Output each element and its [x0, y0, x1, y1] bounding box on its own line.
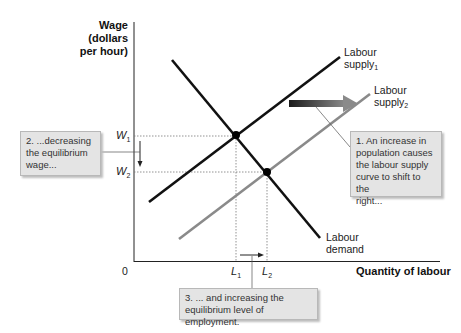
- origin-label: 0: [122, 265, 128, 277]
- labour-supply-2-label: Labour supply2: [374, 84, 408, 112]
- w2-text: W: [116, 165, 126, 177]
- w2-tick-label: W2: [116, 165, 130, 179]
- x-axis-title: Quantity of labour: [356, 265, 451, 277]
- callout-line: population causes: [356, 147, 436, 159]
- w2-sub: 2: [126, 172, 130, 179]
- equilibrium-point-2: [263, 168, 271, 176]
- callout-population-shift: 1. An increase in population causes the …: [350, 131, 442, 197]
- callout-line: curve to shift to the: [356, 171, 436, 195]
- w1-sub: 1: [126, 136, 130, 143]
- y-axis-title-line: Wage: [74, 19, 128, 32]
- w1-text: W: [116, 129, 126, 141]
- labour-supply-1-label: Labour supply1: [344, 46, 378, 74]
- curve-label-line: Labour: [374, 84, 408, 96]
- curve-label-sub: 1: [374, 64, 378, 71]
- callout-line: right...: [356, 195, 436, 207]
- l1-sub: 1: [237, 272, 241, 279]
- equilibrium-point-1: [232, 131, 240, 139]
- y-axis-title-line: per hour): [74, 45, 128, 58]
- curve-label-line: demand: [326, 243, 364, 255]
- callout-line: wage...: [26, 159, 95, 171]
- l2-tick-label: L2: [262, 265, 272, 279]
- callout-line: the equilibrium: [26, 147, 95, 159]
- callout-line: 2. ...decreasing: [26, 135, 95, 147]
- l1-tick-label: L1: [231, 265, 241, 279]
- curve-label-line: supply: [344, 58, 374, 70]
- wage-down-arrow-icon: [138, 141, 143, 167]
- curve-label-line: Labour: [344, 46, 378, 58]
- labour-supply-1-curve: [149, 57, 340, 202]
- l2-sub: 2: [268, 272, 272, 279]
- callout-increasing-employment: 3. ... and increasing the equilibrium le…: [179, 288, 318, 320]
- y-axis-title-line: (dollars: [74, 32, 128, 45]
- curve-label-line: Labour: [326, 231, 364, 243]
- curve-label-sub: 2: [404, 102, 408, 109]
- labour-supply-2-curve: [179, 94, 370, 239]
- labour-demand-label: Labour demand: [326, 231, 364, 255]
- y-axis-title: Wage (dollars per hour): [74, 19, 128, 58]
- callout-line: 1. An increase in: [356, 135, 436, 147]
- callout-line: 3. ... and increasing the: [185, 292, 312, 304]
- callout-line: the labour supply: [356, 159, 436, 171]
- w1-tick-label: W1: [116, 129, 130, 143]
- callout-decreasing-wage: 2. ...decreasing the equilibrium wage...: [20, 131, 101, 176]
- curve-label-line: supply: [374, 96, 404, 108]
- callout-line: equilibrium level of employment.: [185, 304, 312, 328]
